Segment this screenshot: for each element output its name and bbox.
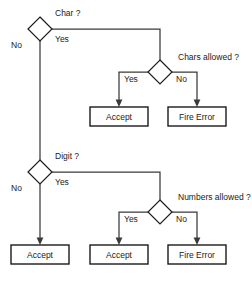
edge-label-digit-yes: Yes — [55, 177, 69, 187]
arrowhead-digit-no — [37, 237, 44, 245]
flowchart-canvas: Char ? Chars allowed ? Digit ? Numbers a… — [0, 0, 252, 281]
terminal-label-fire-error-chars: Fire Error — [179, 112, 215, 122]
decision-chars-allowed[interactable] — [148, 60, 172, 84]
arrowhead-chars-allowed-yes — [116, 99, 123, 107]
terminal-label-accept-numbers: Accept — [106, 250, 133, 260]
decision-digit[interactable] — [28, 160, 52, 184]
edge-label-digit-no: No — [11, 183, 22, 193]
arrowhead-numbers-allowed-no — [194, 237, 201, 245]
decision-char-label: Char ? — [55, 8, 81, 18]
edge-label-chars-allowed-no: No — [176, 74, 187, 84]
terminal-label-fire-error-numbers: Fire Error — [179, 250, 215, 260]
terminal-label-accept-no-digit: Accept — [27, 250, 54, 260]
edge-label-char-no: No — [11, 40, 22, 50]
edge-label-numbers-allowed-yes: Yes — [124, 214, 138, 224]
terminal-label-accept-chars: Accept — [106, 112, 133, 122]
edge-label-numbers-allowed-no: No — [176, 214, 187, 224]
decision-numbers-allowed[interactable] — [148, 200, 172, 224]
arrowhead-numbers-allowed-yes — [116, 237, 123, 245]
decision-digit-label: Digit ? — [55, 151, 79, 161]
decision-char[interactable] — [28, 17, 52, 41]
decision-chars-allowed-label: Chars allowed ? — [178, 52, 239, 62]
edge-label-chars-allowed-yes: Yes — [124, 74, 138, 84]
flowchart-diagram: Char ? Chars allowed ? Digit ? Numbers a… — [0, 0, 252, 281]
decision-numbers-allowed-label: Numbers allowed ? — [178, 192, 251, 202]
arrowhead-chars-allowed-no — [194, 99, 201, 107]
edge-label-char-yes: Yes — [55, 34, 69, 44]
